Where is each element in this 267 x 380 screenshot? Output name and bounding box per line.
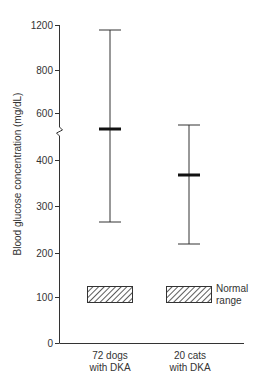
- normal-range-boxes: [88, 287, 212, 303]
- y-axis-label: Blood glucose concentration (mg/dL): [12, 93, 23, 256]
- category-dogs-line-1: 72 dogs: [92, 350, 128, 361]
- y-tick-label: 400: [36, 155, 53, 166]
- normal-range-legend: Normal range: [216, 283, 248, 306]
- legend-line-1: Normal: [216, 283, 248, 294]
- blood-glucose-chart: Blood glucose concentration (mg/dL) 0100…: [0, 0, 267, 380]
- y-tick-label: 100: [36, 292, 53, 303]
- category-cats-line-2: with DKA: [168, 362, 210, 373]
- y-tick-label: 1200: [31, 20, 54, 31]
- legend-line-2: range: [216, 295, 242, 306]
- range-dogs: [99, 30, 121, 222]
- y-tick-label: 600: [36, 108, 53, 119]
- category-dogs-line-2: with DKA: [88, 362, 130, 373]
- y-tick-label: 800: [36, 65, 53, 76]
- y-tick-label: 0: [47, 338, 53, 349]
- normal-range-box: [88, 287, 133, 303]
- normal-range-box: [167, 287, 212, 303]
- category-cats-line-1: 20 cats: [174, 350, 206, 361]
- y-tick-label: 200: [36, 248, 53, 259]
- y-axis: [57, 25, 63, 343]
- y-tick-label: 300: [36, 201, 53, 212]
- x-axis-category-labels: 72 dogs with DKA 20 cats with DKA: [88, 350, 210, 373]
- y-axis-ticks: 01002003004006008001200: [31, 20, 60, 349]
- range-series: [99, 30, 200, 244]
- range-cats: [178, 125, 200, 244]
